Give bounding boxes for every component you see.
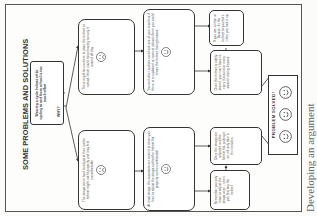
problem-text: There might be nowhere to store the helm…	[82, 24, 94, 89]
problem-box-straps: The straps seem hard to adjust at first,…	[78, 130, 135, 210]
problem-solved-box: PROBLEM SOLVED!	[268, 75, 298, 155]
happy-face-icon	[279, 131, 292, 144]
happy-face-icon	[161, 164, 171, 174]
step-box-straps-adjusted: Once the straps are adjusted and the hel…	[210, 127, 262, 165]
solution-text: At most shops, the assistants are traine…	[147, 131, 159, 206]
step-text: Remember you only have to adjust the str…	[214, 176, 234, 205]
step-text: Once the straps are adjusted and the hel…	[214, 132, 234, 160]
start-text: Wearing a cycle helmet while cycling to …	[35, 66, 47, 119]
happy-face-icon	[279, 87, 292, 100]
step-text: If you use a chair or Dvorak, fix the he…	[213, 14, 229, 42]
problem-box-storage: There might be nowhere to store the helm…	[78, 19, 135, 95]
step-text: Once the helmet is safely stored, you wo…	[214, 55, 230, 91]
diagram-title: SOME PROBLEMS AND SOLUTIONS	[21, 39, 30, 170]
solution-box-storage: You and other cyclists could ask one of …	[143, 9, 195, 95]
problem-solved-label: PROBLEM SOLVED!	[271, 76, 276, 154]
sad-face-icon	[96, 165, 106, 175]
step-box-stored: Once the helmet is safely stored, you wo…	[210, 50, 262, 95]
step-box-lock-helmet: If you use a chair or Dvorak, fix the he…	[209, 10, 244, 46]
solution-box-straps: At most shops, the assistants are traine…	[143, 127, 195, 211]
why-label: WHY?	[57, 106, 61, 117]
solution-text: You and other cyclists could ask one of …	[147, 13, 159, 91]
sad-face-icon	[96, 52, 106, 62]
step-box-remember: Remember you only have to adjust the str…	[210, 170, 250, 210]
rotated-page: SOME PROBLEMS AND SOLUTIONS Wearing a cy…	[0, 0, 317, 216]
problem-text: The straps seem hard to adjust at first,…	[82, 138, 94, 202]
happy-face-icon	[279, 109, 292, 122]
figure-caption: Developing an argument	[304, 103, 316, 212]
happy-faces-row	[279, 76, 292, 154]
happy-face-icon	[161, 47, 171, 57]
